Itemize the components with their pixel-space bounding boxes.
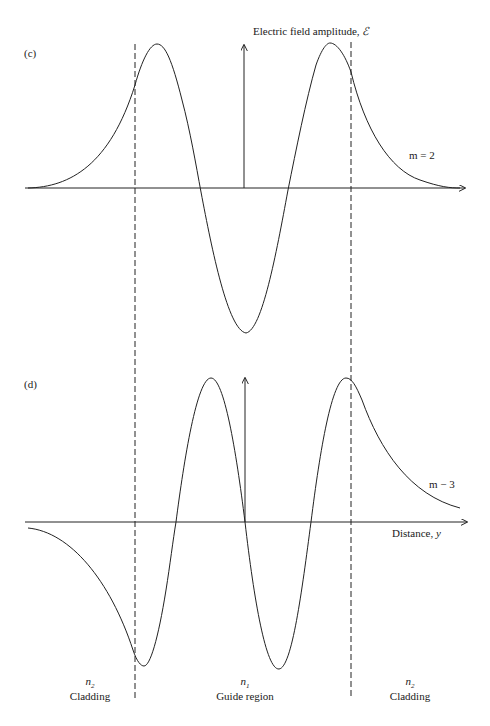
region-name-right: Cladding [390, 690, 430, 702]
field-symbol: ℰ [362, 25, 369, 37]
region-name-guide: Guide region [216, 690, 274, 702]
panel-c-label: (c) [24, 48, 36, 59]
waveguide-mode-diagram [0, 0, 490, 726]
panel-d-label: (d) [24, 379, 37, 390]
refractive-index-n2-right: n2 [355, 676, 465, 691]
distance-symbol: y [436, 527, 441, 539]
region-cladding-right: n2 Cladding [355, 676, 465, 702]
mode-label-m3: m − 3 [429, 479, 455, 490]
x-axis-title-text: Distance, [392, 527, 436, 539]
panel-d-mode-curve [28, 378, 460, 669]
region-guide: n1 Guide region [190, 676, 300, 702]
refractive-index-n2-left: n2 [35, 676, 145, 691]
refractive-index-n1: n1 [190, 676, 300, 691]
y-axis-title: Electric field amplitude, ℰ [253, 26, 369, 37]
mode-label-m2: m = 2 [409, 150, 435, 161]
region-name-left: Cladding [70, 690, 110, 702]
region-cladding-left: n2 Cladding [35, 676, 145, 702]
y-axis-title-text: Electric field amplitude, [253, 25, 362, 37]
x-axis-title: Distance, y [392, 528, 441, 539]
